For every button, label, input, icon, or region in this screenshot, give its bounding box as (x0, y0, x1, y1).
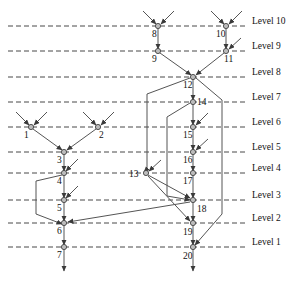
node-group (28, 23, 228, 249)
node-8[interactable] (155, 23, 160, 28)
stub-in-11 (229, 38, 241, 49)
edge-18-6 (68, 202, 190, 222)
level-label-7: Level 7 (252, 92, 281, 102)
node-label-4: 4 (57, 176, 62, 186)
node-label-17: 17 (183, 176, 193, 186)
level-label-9: Level 9 (252, 41, 281, 51)
node-label-18: 18 (197, 204, 207, 214)
node-14[interactable] (190, 99, 195, 104)
node-label-6: 6 (57, 226, 62, 236)
node-15[interactable] (190, 124, 195, 129)
node-label-14: 14 (197, 97, 207, 107)
node-label-20: 20 (183, 251, 193, 261)
node-label-19: 19 (183, 227, 193, 237)
stub-in-1-right (34, 112, 47, 125)
stub-in-16 (196, 139, 208, 150)
stub-in-15 (196, 113, 208, 125)
node-label-3: 3 (57, 155, 62, 165)
level-label-8: Level 8 (252, 67, 281, 77)
node-6[interactable] (61, 220, 66, 225)
node-7[interactable] (61, 244, 66, 249)
node-4[interactable] (61, 170, 66, 175)
node-label-1: 1 (24, 130, 29, 140)
node-label-5: 5 (57, 203, 62, 213)
level-label-4: Level 4 (252, 163, 281, 173)
node-5[interactable] (61, 197, 66, 202)
level-label-1: Level 1 (252, 237, 281, 247)
node-20[interactable] (190, 244, 195, 249)
node-label-9: 9 (152, 54, 157, 64)
node-label-2: 2 (99, 130, 104, 140)
edge-2-3 (67, 129, 96, 150)
node-label-15: 15 (183, 130, 193, 140)
node-1[interactable] (28, 124, 33, 129)
stub-in-8-left (143, 11, 156, 24)
node-18[interactable] (190, 197, 195, 202)
node-label-13: 13 (129, 169, 139, 179)
stub-in-13 (149, 160, 161, 171)
node-label-16: 16 (183, 155, 193, 165)
node-19[interactable] (190, 220, 195, 225)
edge-1-3 (33, 129, 62, 150)
node-2[interactable] (95, 124, 100, 129)
node-label-12: 12 (183, 80, 193, 90)
level-label-6: Level 6 (252, 117, 281, 127)
node-label-7: 7 (57, 250, 62, 260)
node-12[interactable] (190, 74, 195, 79)
stub-in-10-right (229, 11, 242, 24)
node-13[interactable] (143, 170, 148, 175)
graph-diagram-canvas: Level 10Level 9Level 8Level 7Level 6Leve… (0, 0, 307, 283)
level-label-5: Level 5 (252, 142, 281, 152)
node-11[interactable] (223, 48, 228, 53)
stub-in-2-left (83, 112, 96, 125)
node-label-10: 10 (216, 29, 226, 39)
node-9[interactable] (155, 48, 160, 53)
node-label-8: 8 (152, 29, 157, 39)
stub-in-2-right (101, 112, 114, 125)
node-3[interactable] (61, 149, 66, 154)
stub-in-5 (66, 186, 78, 198)
stub-in-8-right (161, 11, 174, 24)
level-label-3: Level 3 (252, 190, 281, 200)
level-label-10: Level 10 (252, 16, 286, 26)
node-10[interactable] (223, 23, 228, 28)
node-17[interactable] (190, 170, 195, 175)
node-16[interactable] (190, 149, 195, 154)
stub-in-10-left (211, 11, 224, 24)
edge-9-12 (160, 53, 191, 75)
level-label-2: Level 2 (252, 213, 281, 223)
stub-in-1-left (16, 112, 29, 125)
stub-in-4 (66, 159, 78, 171)
node-label-11: 11 (224, 54, 233, 64)
edge-11-12 (196, 53, 224, 75)
